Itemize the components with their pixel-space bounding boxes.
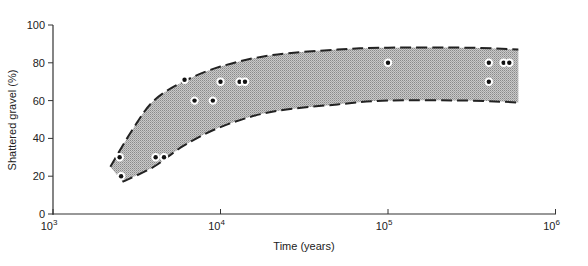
data-point (162, 155, 166, 159)
data-point (218, 80, 222, 84)
data-point (487, 61, 491, 65)
x-tick-label: 105 (376, 218, 393, 232)
data-point (117, 155, 121, 159)
x-tick-label: 103 (41, 218, 58, 232)
y-tick-label: 40 (33, 132, 45, 144)
data-point (192, 98, 196, 102)
data-point (153, 155, 157, 159)
y-axis-title: Shattered gravel (%) (6, 70, 18, 171)
envelope-band (110, 47, 518, 181)
y-tick-label: 100 (27, 19, 45, 31)
x-axis-title: Time (years) (273, 240, 334, 252)
chart: 020406080100 Shattered gravel (%) 103104… (0, 0, 588, 266)
x-axis: 103104105106 Time (years) (41, 209, 561, 252)
data-point (211, 98, 215, 102)
y-tick-label: 60 (33, 95, 45, 107)
data-point (507, 61, 511, 65)
x-tick-label: 104 (208, 218, 225, 232)
data-point (386, 61, 390, 65)
data-point (487, 80, 491, 84)
y-tick-label: 20 (33, 170, 45, 182)
data-point (182, 78, 186, 82)
y-axis: 020406080100 Shattered gravel (%) (6, 19, 53, 220)
data-point (119, 174, 123, 178)
data-point (243, 80, 247, 84)
y-tick-label: 80 (33, 57, 45, 69)
x-tick-label: 106 (543, 218, 560, 232)
y-tick-label: 0 (39, 208, 45, 220)
